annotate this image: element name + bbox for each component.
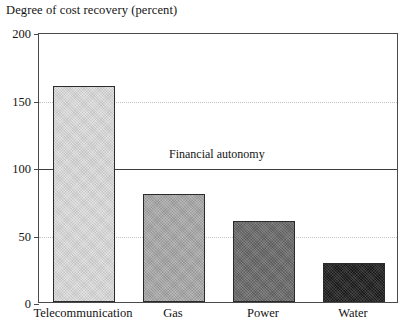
cost-recovery-bar-chart: Degree of cost recovery (percent) 050100… [0, 0, 414, 333]
bar-texture [324, 264, 384, 301]
bar-power [233, 221, 295, 302]
plot-inner: 050100150200Financial autonomy [39, 34, 397, 302]
y-tick-label: 100 [12, 162, 31, 176]
x-axis-label-power: Power [247, 306, 279, 321]
y-tick-label: 200 [12, 27, 31, 41]
bar-texture [234, 222, 294, 301]
x-axis-label-gas: Gas [163, 306, 182, 321]
x-axis-label-water: Water [338, 306, 368, 321]
bar-water [323, 263, 385, 302]
y-tick-mark [34, 102, 39, 103]
y-tick-mark [34, 237, 39, 238]
y-tick-mark [34, 34, 39, 35]
bar-texture [144, 195, 204, 301]
bar-gas [143, 194, 205, 302]
bar-telecommunication [53, 86, 115, 302]
y-tick-label: 150 [12, 95, 31, 109]
y-tick-label: 0 [25, 297, 31, 311]
y-tick-label: 50 [19, 230, 32, 244]
chart-title: Degree of cost recovery (percent) [6, 3, 177, 18]
plot-area: 050100150200Financial autonomy [38, 33, 398, 303]
bar-texture [54, 87, 114, 301]
x-axis-label-telecommunication: Telecommunication [33, 306, 132, 321]
financial-autonomy-label: Financial autonomy [169, 147, 265, 161]
y-tick-mark [34, 304, 39, 305]
